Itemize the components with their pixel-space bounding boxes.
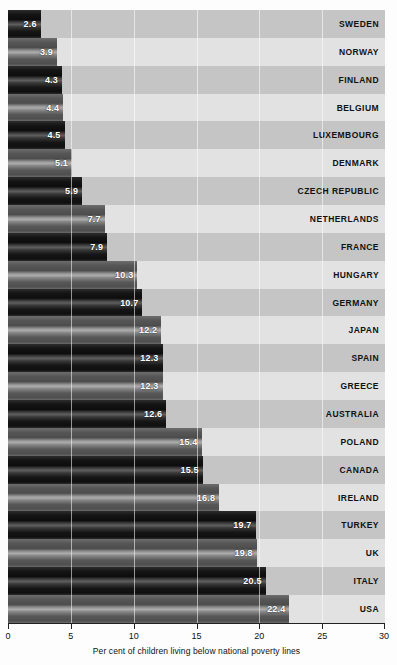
bar-row: 15.5CANADA [8, 456, 385, 484]
bar-value-label: 15.4 [179, 437, 197, 447]
bar-row: 4.5LUXEMBOURG [8, 121, 385, 149]
x-axis-title: Per cent of children living below nation… [8, 646, 385, 656]
bar: 5.9 [8, 177, 82, 205]
bar-row: 7.7NETHERLANDS [8, 205, 385, 233]
bar-rows: 2.6SWEDEN3.9NORWAY4.3FINLAND4.4BELGIUM4.… [8, 10, 385, 623]
category-label: POLAND [340, 437, 379, 447]
bar-row: 12.3GREECE [8, 372, 385, 400]
axis-tick-label: 30 [379, 631, 389, 641]
bar: 16.8 [8, 484, 219, 512]
bar-row: 15.4POLAND [8, 428, 385, 456]
category-label: IRELAND [338, 493, 379, 503]
bar-value-label: 7.9 [90, 242, 103, 252]
category-label: SPAIN [351, 353, 379, 363]
axis-tick [8, 623, 9, 629]
bar-value-label: 20.5 [243, 576, 261, 586]
bar-row: 4.4BELGIUM [8, 94, 385, 122]
bar: 15.4 [8, 428, 202, 456]
category-label: GREECE [340, 381, 379, 391]
category-label: BELGIUM [337, 103, 379, 113]
bar: 3.9 [8, 38, 57, 66]
bar: 12.2 [8, 316, 161, 344]
category-label: GERMANY [332, 298, 379, 308]
axis-tick [322, 623, 323, 629]
bar: 10.3 [8, 261, 137, 289]
bar-row: 10.7GERMANY [8, 289, 385, 317]
bar-row: 19.8UK [8, 539, 385, 567]
category-label: LUXEMBOURG [313, 130, 379, 140]
category-label: CZECH REPUBLIC [298, 186, 379, 196]
axis-tick-label: 15 [191, 631, 201, 641]
category-label: JAPAN [349, 325, 379, 335]
bar: 15.5 [8, 456, 203, 484]
category-label: UK [366, 548, 379, 558]
axis-tick [259, 623, 260, 629]
bar: 5.1 [8, 149, 72, 177]
bar: 12.3 [8, 372, 163, 400]
category-label: NORWAY [339, 47, 379, 57]
category-label: USA [360, 604, 379, 614]
bar: 7.7 [8, 205, 105, 233]
bar-value-label: 3.9 [40, 47, 53, 57]
bar: 4.4 [8, 94, 63, 122]
bar-value-label: 12.3 [140, 381, 158, 391]
axis-tick-label: 20 [254, 631, 264, 641]
bar-value-label: 15.5 [180, 465, 198, 475]
bar: 19.7 [8, 511, 256, 539]
category-label: AUSTRALIA [326, 409, 379, 419]
bar-row: 22.4USA [8, 595, 385, 623]
category-label: SWEDEN [339, 19, 379, 29]
bar: 4.3 [8, 66, 62, 94]
bar-value-label: 10.3 [115, 270, 133, 280]
poverty-bar-chart: 2.6SWEDEN3.9NORWAY4.3FINLAND4.4BELGIUM4.… [0, 0, 397, 665]
bar-value-label: 19.8 [234, 548, 252, 558]
axis-tick-label: 10 [129, 631, 139, 641]
bar-row: 10.3HUNGARY [8, 261, 385, 289]
bar: 10.7 [8, 289, 142, 317]
category-label: FRANCE [341, 242, 379, 252]
bar: 12.6 [8, 400, 166, 428]
bar-row: 16.8IRELAND [8, 484, 385, 512]
bar: 7.9 [8, 233, 107, 261]
bar-row: 3.9NORWAY [8, 38, 385, 66]
bar-value-label: 5.1 [55, 158, 68, 168]
axis-tick [134, 623, 135, 629]
category-label: HUNGARY [333, 270, 379, 280]
bar: 20.5 [8, 567, 266, 595]
axis-tick-label: 5 [68, 631, 73, 641]
bar-value-label: 4.4 [46, 103, 59, 113]
bar-value-label: 12.2 [139, 325, 157, 335]
category-label: FINLAND [339, 75, 379, 85]
category-label: NETHERLANDS [310, 214, 379, 224]
bar-value-label: 19.7 [233, 520, 251, 530]
bar-value-label: 4.3 [45, 75, 58, 85]
bar-row: 12.3SPAIN [8, 344, 385, 372]
bar-value-label: 5.9 [65, 186, 78, 196]
bar-value-label: 7.7 [88, 214, 101, 224]
bar-row: 19.7TURKEY [8, 511, 385, 539]
bar-row: 20.5ITALY [8, 567, 385, 595]
bar-row: 2.6SWEDEN [8, 10, 385, 38]
category-label: CANADA [339, 465, 379, 475]
category-label: ITALY [354, 576, 379, 586]
x-axis: 051015202530 Per cent of children living… [8, 623, 385, 665]
bar: 2.6 [8, 10, 41, 38]
bar: 12.3 [8, 344, 163, 372]
axis-tick-label: 0 [5, 631, 10, 641]
axis-tick [384, 623, 385, 629]
axis-tick-label: 25 [317, 631, 327, 641]
bar-row: 12.2JAPAN [8, 316, 385, 344]
bar: 19.8 [8, 539, 257, 567]
bar-row: 12.6AUSTRALIA [8, 400, 385, 428]
bar-value-label: 22.4 [267, 604, 285, 614]
bar-row: 5.1DENMARK [8, 149, 385, 177]
bar: 22.4 [8, 595, 289, 623]
bar-value-label: 2.6 [24, 19, 37, 29]
category-label: DENMARK [332, 158, 379, 168]
category-label: TURKEY [341, 520, 379, 530]
bar-value-label: 16.8 [197, 493, 215, 503]
axis-tick [197, 623, 198, 629]
bar-value-label: 12.3 [140, 353, 158, 363]
bar-value-label: 4.5 [47, 130, 60, 140]
bar-value-label: 10.7 [120, 298, 138, 308]
